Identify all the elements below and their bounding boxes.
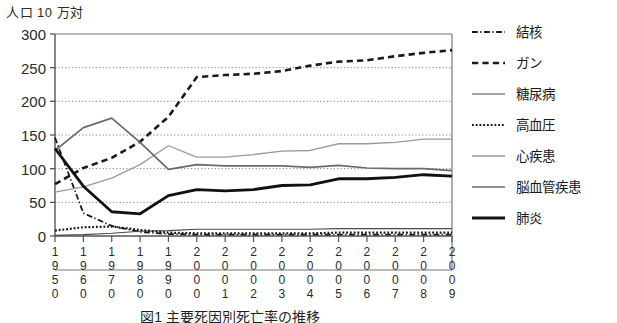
legend-label: 肺炎 [516, 211, 542, 226]
svg-text:2: 2 [307, 245, 314, 259]
y-axis-ticks: 300250200150100500 [21, 26, 55, 245]
legend-label: ガン [516, 56, 542, 71]
svg-text:2: 2 [449, 245, 456, 259]
svg-text:2: 2 [420, 245, 427, 259]
svg-text:9: 9 [80, 259, 87, 273]
svg-text:0: 0 [222, 273, 229, 287]
svg-text:0: 0 [335, 273, 342, 287]
svg-text:9: 9 [449, 287, 456, 301]
svg-text:0: 0 [250, 259, 257, 273]
x-tick-label: 2006 [364, 245, 371, 301]
svg-text:0: 0 [279, 273, 286, 287]
x-tick-label: 2002 [250, 245, 257, 301]
legend-label: 脳血管疾患 [516, 180, 581, 195]
svg-text:3: 3 [279, 287, 286, 301]
svg-text:0: 0 [193, 259, 200, 273]
x-tick-label: 1970 [108, 245, 115, 301]
svg-text:0: 0 [307, 259, 314, 273]
svg-text:2: 2 [250, 287, 257, 301]
svg-text:0: 0 [335, 259, 342, 273]
svg-text:0: 0 [250, 273, 257, 287]
svg-text:1: 1 [108, 245, 115, 259]
svg-text:2: 2 [250, 245, 257, 259]
series-line [55, 227, 452, 234]
svg-text:0: 0 [108, 287, 115, 301]
x-tick-label: 2005 [335, 245, 342, 301]
svg-text:1: 1 [222, 287, 229, 301]
svg-text:5: 5 [335, 287, 342, 301]
svg-text:1: 1 [80, 245, 87, 259]
y-tick-label: 250 [21, 60, 46, 77]
gridlines [55, 68, 452, 203]
svg-text:1: 1 [137, 245, 144, 259]
svg-text:1: 1 [165, 245, 172, 259]
svg-text:9: 9 [165, 259, 172, 273]
y-tick-label: 150 [21, 127, 46, 144]
x-tick-label: 2008 [420, 245, 427, 301]
x-tick-label: 1980 [137, 245, 144, 301]
x-tick-label: 2001 [222, 245, 229, 301]
y-tick-label: 0 [38, 228, 46, 245]
y-tick-label: 200 [21, 93, 46, 110]
svg-text:9: 9 [108, 259, 115, 273]
chart-legend: 結核ガン糖尿病高血圧心疾患脳血管疾患肺炎 [472, 25, 581, 226]
x-tick-label: 2004 [307, 245, 314, 301]
svg-text:6: 6 [80, 273, 87, 287]
svg-text:2: 2 [364, 245, 371, 259]
svg-text:5: 5 [52, 273, 59, 287]
svg-text:0: 0 [392, 273, 399, 287]
x-axis-ticks: 1950196019701980199020002001200220032004… [52, 236, 456, 301]
x-tick-label: 2007 [392, 245, 399, 301]
svg-text:7: 7 [108, 273, 115, 287]
series-line [55, 138, 452, 235]
legend-label: 高血圧 [516, 117, 555, 133]
svg-text:0: 0 [449, 273, 456, 287]
svg-text:0: 0 [364, 273, 371, 287]
svg-text:0: 0 [193, 287, 200, 301]
svg-text:0: 0 [222, 259, 229, 273]
svg-text:0: 0 [364, 259, 371, 273]
y-tick-label: 50 [29, 194, 46, 211]
series-line [55, 50, 452, 184]
svg-text:9: 9 [52, 259, 59, 273]
svg-text:6: 6 [364, 287, 371, 301]
svg-text:0: 0 [137, 287, 144, 301]
svg-text:9: 9 [137, 259, 144, 273]
svg-text:9: 9 [165, 273, 172, 287]
svg-text:4: 4 [307, 287, 314, 301]
svg-text:2: 2 [279, 245, 286, 259]
svg-text:2: 2 [392, 245, 399, 259]
x-tick-label: 1960 [80, 245, 87, 301]
legend-label: 心疾患 [516, 149, 555, 164]
data-series-layer [55, 50, 452, 235]
figure-root: 人口 10 万対 300250200150100500 195019601970… [0, 0, 617, 323]
svg-text:7: 7 [392, 287, 399, 301]
figure-caption: 図1 主要死因別死亡率の推移 [0, 306, 460, 323]
svg-text:2: 2 [335, 245, 342, 259]
x-tick-label: 2000 [193, 245, 200, 301]
svg-text:0: 0 [165, 287, 172, 301]
x-tick-label: 1990 [165, 245, 172, 301]
y-tick-label: 100 [21, 161, 46, 178]
legend-label: 結核 [516, 25, 542, 40]
x-tick-label: 2003 [279, 245, 286, 301]
x-tick-label: 1950 [52, 245, 59, 301]
svg-text:0: 0 [420, 273, 427, 287]
line-chart: 300250200150100500 195019601970198019902… [0, 0, 617, 323]
svg-text:2: 2 [222, 245, 229, 259]
svg-text:0: 0 [449, 259, 456, 273]
svg-text:1: 1 [52, 245, 59, 259]
svg-text:8: 8 [420, 287, 427, 301]
svg-text:0: 0 [52, 287, 59, 301]
svg-text:0: 0 [193, 273, 200, 287]
svg-text:0: 0 [392, 259, 399, 273]
svg-text:0: 0 [420, 259, 427, 273]
svg-text:8: 8 [137, 273, 144, 287]
svg-text:0: 0 [80, 287, 87, 301]
y-tick-label: 300 [21, 26, 46, 43]
svg-text:2: 2 [193, 245, 200, 259]
svg-text:0: 0 [279, 259, 286, 273]
svg-text:0: 0 [307, 273, 314, 287]
legend-label: 糖尿病 [516, 87, 555, 102]
series-line [55, 118, 452, 171]
